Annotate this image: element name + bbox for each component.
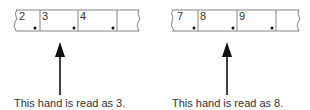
left-caption: This hand is read as 3. xyxy=(14,97,125,109)
right-scale xyxy=(171,10,299,31)
left-scale xyxy=(14,10,140,31)
right-scale-number-7: 7 xyxy=(177,10,183,22)
left-scale-number-3: 3 xyxy=(42,10,48,22)
right-scale-number-9: 9 xyxy=(239,10,245,22)
right-caption: This hand is read as 8. xyxy=(172,97,283,109)
left-arrow-icon xyxy=(55,42,65,95)
left-scale-dots xyxy=(34,27,115,30)
right-scale-number-8: 8 xyxy=(200,10,206,22)
left-scale-number-4: 4 xyxy=(80,10,86,22)
right-scale-dots xyxy=(193,27,274,30)
scale-diagram: 2 3 4 7 8 9 xyxy=(0,0,310,110)
left-scale-number-2: 2 xyxy=(19,10,25,22)
right-arrow-icon xyxy=(222,42,232,95)
